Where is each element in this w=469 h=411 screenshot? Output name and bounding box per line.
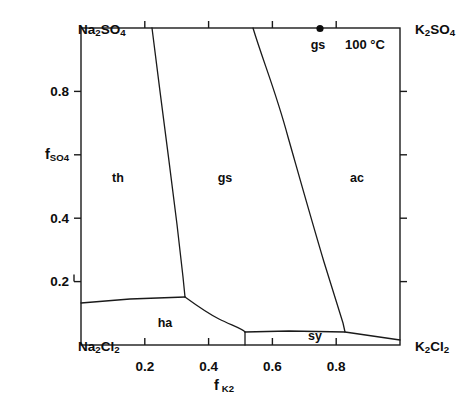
boundary-sy-bottom bbox=[245, 331, 400, 340]
x-tick-label-0: 0.2 bbox=[135, 360, 154, 374]
corner-label-top-right: K2SO4 bbox=[415, 23, 455, 38]
x-tick-label-2: 0.6 bbox=[263, 360, 282, 374]
y-tick-label-1: 0.4 bbox=[50, 212, 69, 226]
x-tick-label-3: 0.8 bbox=[327, 360, 346, 374]
invariant-point-marker bbox=[316, 25, 323, 32]
region-label-ha: ha bbox=[158, 317, 173, 330]
phase-boundary-curves bbox=[81, 28, 400, 345]
corner-label-top-left: Na2SO4 bbox=[78, 23, 126, 38]
y-tick-label-0: 0.2 bbox=[50, 275, 69, 289]
boundary-th-gs bbox=[152, 28, 185, 297]
plot-frame bbox=[81, 28, 400, 345]
region-label-sy: sy bbox=[308, 330, 322, 343]
x-tick-label-1: 0.4 bbox=[199, 360, 218, 374]
marker-label-gs: gs bbox=[311, 39, 326, 52]
y-axis-title: fSO4 bbox=[45, 147, 69, 162]
x-axis-title: fK2 bbox=[214, 378, 234, 393]
boundary-th-ha bbox=[81, 297, 185, 303]
boundary-gs-ac bbox=[253, 28, 345, 332]
boundary-ha-sy bbox=[185, 297, 245, 332]
phase-diagram-figure bbox=[0, 0, 469, 411]
y-tick-label-2: 0.8 bbox=[50, 85, 69, 99]
x-axis-top-ticks bbox=[145, 21, 336, 28]
corner-label-bottom-left: Na2Cl2 bbox=[78, 340, 120, 355]
region-label-gs: gs bbox=[218, 172, 233, 185]
region-label-ac: ac bbox=[350, 172, 364, 185]
region-label-th: th bbox=[112, 172, 124, 185]
temperature-annotation: 100 °C bbox=[345, 38, 385, 51]
y-axis-right-ticks bbox=[400, 91, 407, 281]
corner-label-bottom-right: K2Cl2 bbox=[415, 340, 449, 355]
y-axis-left-ticks bbox=[74, 91, 81, 281]
